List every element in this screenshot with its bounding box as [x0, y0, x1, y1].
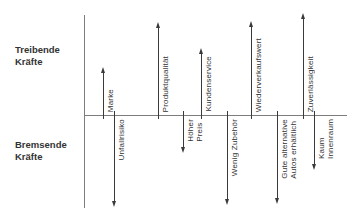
vertical-axis-line	[84, 15, 85, 208]
driving-forces-title: Treibende Kräfte	[15, 44, 60, 68]
arrowhead-down-icon	[275, 198, 279, 204]
arrowhead-up-icon	[249, 21, 253, 27]
restraining-force-label: Unfallrisiko	[117, 119, 126, 161]
arrowhead-up-icon	[301, 13, 305, 19]
driving-force-label: Produktqualität	[161, 56, 170, 112]
baseline-equilibrium-line	[84, 115, 347, 116]
arrowhead-up-icon	[199, 48, 203, 54]
restraining-force-label: Kaum Innenraum	[317, 119, 335, 159]
driving-force-label: Zuverlässigkeit	[306, 56, 315, 112]
arrowhead-up-icon	[101, 67, 105, 73]
restraining-force-arrow	[114, 111, 115, 202]
driving-force-label: Kundenservice	[204, 56, 213, 112]
arrowhead-down-icon	[181, 147, 185, 153]
arrowhead-up-icon	[156, 22, 160, 28]
arrowhead-down-icon	[225, 199, 229, 205]
restraining-force-arrow	[277, 111, 278, 199]
driving-force-arrow	[303, 18, 304, 119]
restraining-force-label: Gute alternative Autos erhältlich	[280, 119, 298, 179]
restraining-forces-title: Bremsende Kräfte	[15, 139, 67, 163]
restraining-force-label: Höher Preis	[186, 119, 204, 142]
force-field-diagram: Treibende Kräfte Bremsende Kräfte MarkeP…	[0, 0, 358, 224]
restraining-force-label: Wenig Zubehör	[230, 119, 239, 176]
driving-force-arrow	[251, 26, 252, 119]
arrowhead-down-icon	[312, 164, 316, 170]
driving-force-arrow	[201, 53, 202, 119]
arrowhead-down-icon	[112, 201, 116, 207]
driving-force-arrow	[103, 72, 104, 119]
driving-force-label: Marke	[106, 89, 115, 112]
restraining-force-arrow	[314, 111, 315, 165]
restraining-force-arrow	[227, 111, 228, 200]
driving-force-label: Wiederverkaufswert	[254, 38, 263, 112]
restraining-force-arrow	[183, 111, 184, 148]
driving-force-arrow	[158, 27, 159, 119]
